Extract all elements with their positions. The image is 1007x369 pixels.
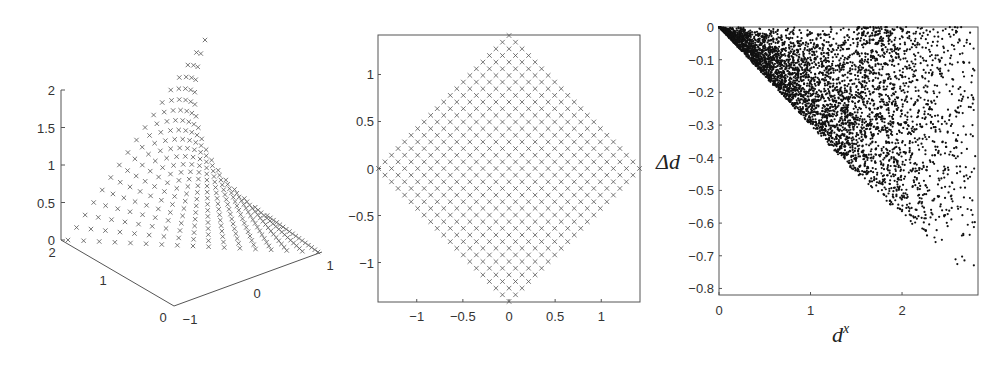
- svg-text:−1: −1: [409, 309, 424, 324]
- svg-text:−0.5: −0.5: [348, 209, 374, 224]
- svg-text:1: 1: [99, 273, 106, 288]
- svg-text:0.5: 0.5: [356, 114, 374, 129]
- svg-text:0: 0: [707, 20, 714, 35]
- svg-text:0.5: 0.5: [546, 309, 564, 324]
- svg-text:1: 1: [367, 67, 374, 82]
- svg-text:−0.7: −0.7: [688, 249, 714, 264]
- plot-delta-scatter: 0120−0.1−0.2−0.3−0.4−0.5−0.6−0.7−0.8 Δd …: [655, 20, 978, 347]
- svg-text:2: 2: [898, 303, 905, 318]
- svg-text:0: 0: [253, 286, 260, 301]
- svg-text:−0.1: −0.1: [688, 53, 714, 68]
- svg-text:0: 0: [715, 303, 722, 318]
- width-axis: [174, 252, 322, 306]
- svg-text:1: 1: [598, 309, 605, 324]
- svg-text:−0.5: −0.5: [688, 183, 714, 198]
- svg-text:−0.5: −0.5: [450, 309, 476, 324]
- plot-diamond: −1−0.500.51−1−0.500.51: [348, 33, 641, 324]
- depth-axis: [61, 240, 174, 306]
- svg-text:0: 0: [159, 310, 166, 325]
- svg-text:−0.4: −0.4: [688, 151, 714, 166]
- z-tick-label: 0.5: [37, 196, 55, 211]
- y-axis-label: Δd: [655, 149, 681, 174]
- svg-text:2: 2: [48, 245, 55, 260]
- svg-text:0: 0: [505, 309, 512, 324]
- svg-text:1: 1: [326, 258, 333, 273]
- svg-text:−1: −1: [183, 312, 198, 327]
- svg-text:−0.2: −0.2: [688, 85, 714, 100]
- figure-canvas: 00.511.52210−101 −1−0.500.51−1−0.500.51 …: [0, 0, 1007, 369]
- svg-text:1: 1: [807, 303, 814, 318]
- svg-text:−0.3: −0.3: [688, 118, 714, 133]
- z-tick-label: 1: [48, 158, 55, 173]
- svg-text:−1: −1: [359, 256, 374, 271]
- plot-3d: 00.511.52210−101: [37, 38, 334, 327]
- z-tick-label: 1.5: [37, 121, 55, 136]
- svg-text:−0.8: −0.8: [688, 281, 714, 296]
- z-tick-label: 2: [48, 83, 55, 98]
- svg-text:−0.6: −0.6: [688, 216, 714, 231]
- x-axis-label: dx: [832, 321, 850, 347]
- svg-text:0: 0: [367, 162, 374, 177]
